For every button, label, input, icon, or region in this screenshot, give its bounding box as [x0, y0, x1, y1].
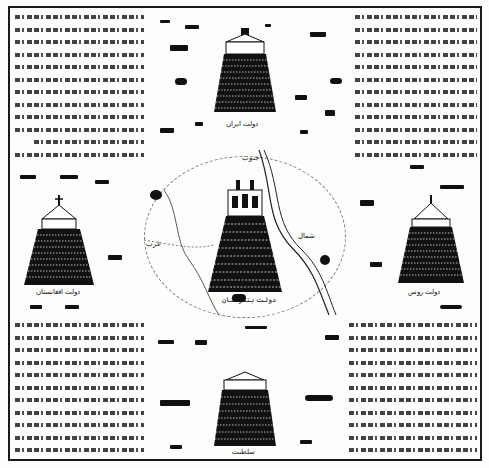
tower-center-illustration — [206, 180, 284, 296]
engraved-plate: Urdu/Persian descriptive text panel (top… — [0, 0, 489, 468]
tower-right-illustration — [396, 195, 466, 287]
text-panel-bottom-left: Urdu/Persian descriptive text panel (bot… — [12, 318, 147, 458]
compass-south-label: جنوب — [242, 154, 259, 162]
tower-right-caption: دولت روس — [408, 288, 440, 296]
tower-top-caption: دولت ایران — [226, 120, 258, 128]
tower-center-caption: دولت ہندوستان — [222, 296, 276, 304]
tower-left-caption: دولت افغانستان — [36, 288, 80, 296]
tower-top-illustration — [212, 28, 278, 118]
compass-north-label: شمال — [298, 232, 315, 240]
text-panel-top-right: Urdu/Persian descriptive text panel (top… — [352, 10, 480, 160]
tower-left-illustration — [22, 195, 96, 290]
text-panel-top-left: Urdu/Persian descriptive text panel (top… — [12, 10, 147, 160]
compass-west-label: غرب — [146, 240, 161, 248]
tower-bottom-illustration — [212, 370, 278, 448]
text-panel-bottom-right: Urdu/Persian descriptive text panel (bot… — [346, 318, 480, 458]
tower-bottom-caption: سلطنت — [232, 448, 255, 456]
